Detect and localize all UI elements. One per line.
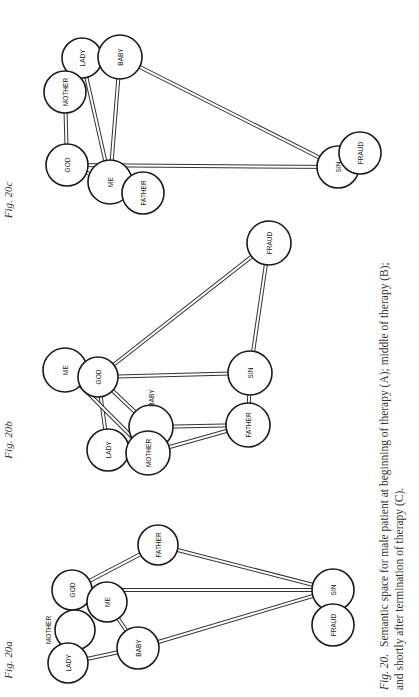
node-b-fraud: FRAUD	[247, 221, 291, 265]
node-a-fraud: FRAUD	[312, 604, 354, 646]
node-c-father: FATHER	[122, 172, 164, 214]
node-label: GOD	[95, 369, 102, 384]
node-c-fraud: FRAUD	[339, 132, 381, 174]
node-b-sin: SIN	[228, 351, 272, 395]
node-label: ME	[62, 364, 69, 374]
caption-line-1: Fig. 20. Semantic space for male patient…	[378, 262, 391, 691]
figure-label-a: Fig. 20a	[2, 641, 14, 680]
node-label: LADY	[65, 654, 72, 672]
node-c-god: GOD	[46, 144, 88, 186]
figure-caption: Fig. 20. Semantic space for male patient…	[378, 262, 406, 691]
node-label: ME	[104, 596, 111, 606]
edge-a-baby-sin	[138, 590, 333, 648]
node-label: SIN	[335, 161, 342, 172]
node-label: MOTHER	[145, 439, 152, 467]
node-label: LADY	[79, 49, 86, 67]
figure-labels: Fig. 20aFig. 20bFig. 20c	[2, 182, 14, 680]
node-a-lady: LADY	[48, 643, 88, 683]
node-b-lady: LADY	[87, 429, 129, 471]
node-label: BABY	[148, 389, 155, 407]
node-label: GOD	[64, 157, 71, 172]
node-label: SIN	[247, 367, 254, 378]
node-c-mother: MOTHER	[44, 71, 86, 113]
node-label: BABY	[117, 48, 124, 66]
node-b-god: GOD	[78, 357, 118, 397]
node-b-father: FATHER	[226, 403, 270, 447]
node-a-father: FATHER	[138, 525, 178, 565]
nodes-layer: GODMEMOTHERLADYBABYFATHERSINFRAUDMEGODSI…	[43, 35, 381, 683]
node-label: LADY	[105, 441, 112, 459]
edge-a-father-sin	[158, 545, 333, 590]
caption-fig-ref: Fig. 20.	[378, 654, 391, 691]
node-a-baby: BABY	[117, 627, 159, 669]
edge-c-baby-sin	[120, 57, 338, 167]
node-a-me: ME	[87, 582, 127, 622]
caption-line-2: and shortly after termination of therapy…	[393, 488, 406, 690]
node-label: MOTHER	[45, 616, 52, 644]
caption-text-1: Semantic space for male patient at begin…	[378, 262, 391, 647]
node-label: FRAUD	[330, 614, 337, 637]
semantic-space-diagram: GODMEMOTHERLADYBABYFATHERSINFRAUDMEGODSI…	[0, 0, 419, 697]
node-label: MOTHER	[62, 78, 69, 106]
node-label: GOD	[69, 582, 76, 597]
node-label: BABY	[135, 639, 142, 657]
node-a-god: GOD	[52, 570, 92, 610]
node-c-baby: BABY	[98, 35, 142, 79]
node-label: FATHER	[155, 532, 162, 557]
node-label: FRAUD	[266, 232, 273, 255]
node-b-mother: MOTHER	[126, 431, 170, 475]
edge-b-god-sin	[98, 373, 250, 377]
node-label: SIN	[330, 584, 337, 595]
node-label: FATHER	[140, 180, 147, 205]
figure-label-b: Fig. 20b	[2, 421, 14, 460]
node-label: FRAUD	[357, 142, 364, 165]
figure-label-c: Fig. 20c	[2, 182, 14, 220]
node-label: ME	[107, 176, 114, 186]
node-label: FATHER	[245, 412, 252, 437]
